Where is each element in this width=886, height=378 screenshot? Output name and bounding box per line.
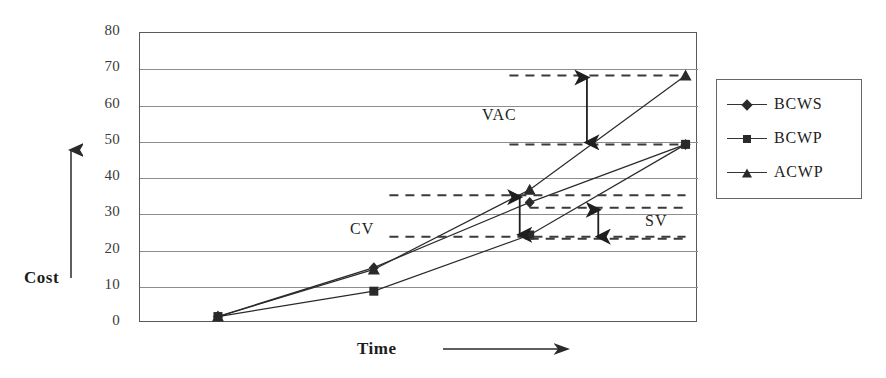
series-line-bcws xyxy=(218,144,686,316)
legend-item-label: BCWS xyxy=(774,95,823,113)
chart-figure: 80706050403020100 Cost Time VAC CV SV xyxy=(0,0,886,378)
data-point-bcwp xyxy=(369,287,378,296)
legend-swatch-line xyxy=(727,104,767,105)
diamond-marker-icon xyxy=(741,99,752,110)
legend-swatch-line xyxy=(727,172,767,173)
legend: BCWSBCWPACWP xyxy=(716,79,862,199)
annotation-label-cv: CV xyxy=(350,220,374,238)
legend-swatch-line xyxy=(727,138,767,139)
data-point-bcws xyxy=(525,197,535,208)
legend-item-bcws[interactable]: BCWS xyxy=(727,94,823,114)
annotation-label-sv: SV xyxy=(645,212,667,230)
legend-item-bcwp[interactable]: BCWP xyxy=(727,128,823,148)
legend-item-label: ACWP xyxy=(774,163,823,181)
legend-item-acwp[interactable]: ACWP xyxy=(727,162,823,182)
square-marker-icon xyxy=(743,135,751,143)
legend-item-label: BCWP xyxy=(774,129,823,147)
annotation-label-vac: VAC xyxy=(482,106,517,124)
triangle-marker-icon xyxy=(742,168,752,177)
data-point-acwp xyxy=(524,184,536,195)
